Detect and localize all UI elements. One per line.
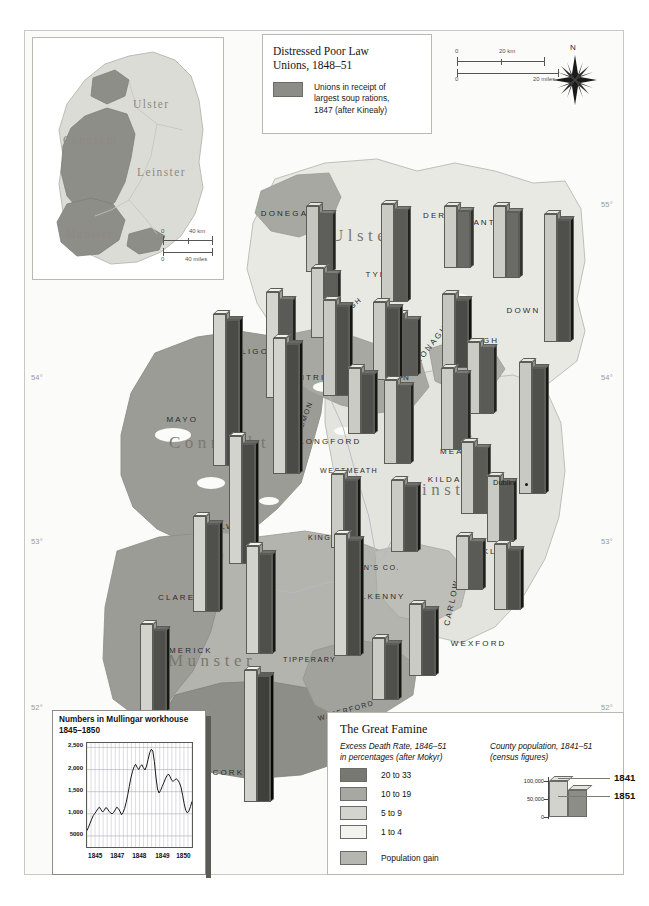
population-gain-label: Population gain [381, 853, 439, 863]
death-rate-label-3: 1 to 4 [381, 827, 402, 837]
population-heading: County population, 1841–51 (census figur… [490, 741, 592, 763]
bar-1851 [422, 610, 435, 676]
bar-pair-limerick [246, 541, 277, 654]
bar-pair-waterford [372, 633, 403, 700]
bar-1841 [519, 362, 532, 494]
pop-year-label-1841: 1841 [614, 772, 635, 783]
inset-scale-tick-km-max [212, 236, 213, 245]
bar-pair-antrim [493, 201, 524, 278]
mullingar-ytick-4: 5000 [53, 831, 83, 837]
place-label-dublin: Dublin [493, 478, 514, 487]
mullingar-chart-shadow [206, 716, 211, 878]
death-rate-class-row: 20 to 33 [340, 768, 480, 782]
inset-scale-tick-km-mid [188, 238, 189, 244]
bar-1841 [213, 314, 226, 466]
bar-face [286, 344, 299, 474]
bar-1841 [444, 206, 457, 268]
county-label-longford: LONGFORD [299, 437, 361, 446]
mullingar-line-series [87, 743, 192, 847]
place-dot-dublin [525, 483, 528, 486]
legend-top-title: Distressed Poor Law Unions, 1848–51 [273, 44, 421, 72]
great-famine-title: The Great Famine [340, 722, 611, 737]
bar-side [417, 483, 421, 552]
pop-leader-1841 [558, 778, 610, 779]
bar-face [347, 540, 360, 656]
inset-label-leinster: Leinster [137, 166, 186, 178]
legend-top-description: Unions in receipt of largest soup ration… [314, 82, 389, 116]
scale-tick-km-0 [457, 57, 458, 66]
bar-face [323, 300, 336, 396]
bar-1841 [493, 206, 506, 278]
bar-face [348, 368, 361, 434]
death-rate-swatch-0 [340, 768, 367, 782]
bar-face [153, 630, 166, 712]
bar-1841 [229, 436, 242, 564]
pop-tick-2 [544, 817, 549, 818]
bar-face [469, 542, 482, 590]
county-label-down: DOWN [507, 306, 541, 315]
bar-face [404, 320, 417, 376]
bar-pair-donegal [306, 201, 337, 272]
mullingar-xtick-2: 1848 [132, 852, 146, 859]
bar-face [442, 294, 455, 368]
bar-face [409, 604, 422, 676]
bar-face [532, 368, 545, 494]
bar-face [457, 211, 470, 268]
mullingar-xtick-4: 1850 [176, 852, 190, 859]
bar-side [520, 547, 524, 610]
compass-rose: N [552, 44, 598, 102]
scale-km-zero: 0 [455, 48, 458, 54]
bar-pair-derry [444, 201, 475, 268]
bar-face [507, 550, 520, 610]
bar-1851 [500, 482, 513, 542]
bar-face [557, 220, 570, 342]
bar-1841 [273, 338, 286, 474]
inset-scale-tick-km-0 [163, 236, 164, 245]
bar-side [435, 607, 439, 676]
legend-top-swatch [273, 82, 303, 97]
bar-1851 [404, 486, 417, 552]
bar-pair-carlow [456, 531, 487, 590]
mullingar-chart-title: Numbers in Mullingar workhouse 1845–1850 [59, 715, 201, 736]
bar-side [360, 537, 364, 656]
bar-1841 [244, 670, 257, 802]
bar-face [519, 362, 532, 494]
bar-pair-roscommon [273, 333, 304, 474]
mullingar-ytick-0: 2,500 [53, 742, 83, 748]
bar-1851 [286, 344, 299, 474]
bar-1841 [442, 294, 455, 368]
bar-side [482, 539, 486, 590]
bar-face [385, 644, 398, 700]
mullingar-ytick-1: 2,000 [53, 765, 83, 771]
population-mini-chart: 100,00050,000018411851 [508, 771, 623, 829]
bar-face [246, 546, 259, 654]
inset-scale-km-max: 40 km [189, 228, 205, 234]
county-label-clare: CLARE [158, 593, 195, 602]
bar-1851 [506, 212, 519, 278]
pop-bar-top-1851 [568, 785, 593, 790]
pop-leader-1851 [558, 796, 610, 797]
bar-side [493, 345, 497, 414]
bar-face [441, 368, 454, 450]
bar-face [474, 448, 487, 514]
bar-1841 [456, 536, 469, 590]
inset-landmass [33, 38, 223, 279]
bar-pair-cork [244, 665, 275, 802]
bar-1841 [372, 638, 385, 700]
bar-face [391, 480, 404, 552]
population-heading-line1: County population, 1841–51 [490, 742, 592, 751]
inset-province-map: Ulster Connacht Leinster Munster 0 40 km… [32, 37, 224, 280]
bar-face [259, 554, 272, 654]
inset-scale-tick-mi-max [212, 248, 213, 256]
lat-label-54-left: 54° [31, 373, 43, 382]
bar-1851 [404, 320, 417, 376]
death-rate-label-0: 20 to 33 [381, 770, 411, 780]
mullingar-xtick-3: 1849 [155, 852, 169, 859]
lat-label-52-left: 52° [31, 703, 43, 712]
mullingar-title-line1: Numbers in Mullingar workhouse [59, 715, 188, 724]
bar-face [461, 442, 474, 514]
inset-label-ulster: Ulster [133, 98, 170, 110]
legend-death-rate-column: Excess Death Rate, 1846–51 in percentage… [340, 741, 480, 865]
bar-side [545, 365, 549, 494]
mullingar-xtick-1: 1847 [110, 852, 124, 859]
